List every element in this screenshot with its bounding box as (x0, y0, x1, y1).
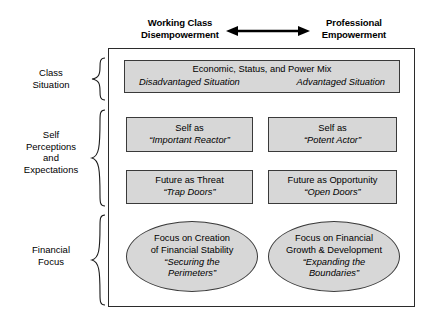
axis-left-line1: Working Class (128, 17, 232, 29)
fin-right-line1: Focus on Financial (295, 233, 373, 245)
future-right-line1: Future as Opportunity (288, 175, 378, 187)
row-label-fin-line2: Focus (14, 256, 88, 268)
axis-right-line2: Empowerment (302, 29, 406, 41)
fin-left-line2: of Financial Stability (151, 245, 234, 257)
self-right-line1: Self as (318, 123, 346, 135)
self-right-line2: “Potent Actor” (304, 135, 361, 147)
ellipse-securing-the-perimeters: Focus on Creation of Financial Stability… (126, 221, 258, 292)
future-right-line2: “Open Doors” (304, 187, 360, 199)
row-label-self-perceptions: Self Perceptions and Expectations (14, 129, 88, 175)
class-situation-right-sub: Advantaged Situation (297, 77, 385, 89)
row-label-self-line3: and (14, 152, 88, 164)
curly-brace-icon-financial-focus (88, 214, 108, 306)
row-label-fin-line1: Financial (14, 244, 88, 256)
box-class-situation: Economic, Status, and Power Mix Disadvan… (124, 60, 400, 93)
axis-label-professional-empowerment: Professional Empowerment (302, 17, 406, 40)
fin-left-line4: Perimeters” (168, 268, 216, 280)
curly-brace-icon-class-situation (88, 57, 108, 101)
ellipse-expanding-the-boundaries: Focus on Financial Growth & Development … (268, 221, 400, 292)
curly-brace-icon-self-perceptions (88, 109, 108, 207)
fin-left-line3: “Securing the (164, 257, 219, 269)
double-headed-horizontal-arrow-icon (226, 22, 310, 40)
fin-right-line2: Growth & Development (286, 245, 382, 257)
row-label-self-line2: Perceptions (14, 141, 88, 153)
box-self-as-potent-actor: Self as “Potent Actor” (268, 117, 397, 152)
row-label-class-situation: Class Situation (14, 67, 88, 90)
self-left-line2: “Important Reactor” (149, 135, 230, 147)
axis-right-line1: Professional (302, 17, 406, 29)
box-future-as-threat: Future as Threat “Trap Doors” (126, 170, 253, 204)
class-situation-subrow: Disadvantaged Situation Advantaged Situa… (125, 77, 399, 89)
fin-left-line1: Focus on Creation (154, 233, 230, 245)
diagram-canvas: Working Class Disempowerment Professiona… (0, 0, 429, 322)
box-self-as-important-reactor: Self as “Important Reactor” (126, 117, 253, 152)
row-label-self-line4: Expectations (14, 164, 88, 176)
class-situation-title: Economic, Status, and Power Mix (193, 64, 332, 76)
fin-right-line4: Boundaries” (309, 268, 359, 280)
row-label-self-line1: Self (14, 129, 88, 141)
future-left-line2: “Trap Doors” (164, 187, 216, 199)
axis-left-line2: Disempowerment (128, 29, 232, 41)
self-left-line1: Self as (175, 123, 203, 135)
class-situation-left-sub: Disadvantaged Situation (139, 77, 240, 89)
row-label-class-line2: Situation (14, 79, 88, 91)
fin-right-line3: “Expanding the (303, 257, 366, 269)
row-label-class-line1: Class (14, 67, 88, 79)
future-left-line1: Future as Threat (155, 175, 224, 187)
axis-label-working-class-disempowerment: Working Class Disempowerment (128, 17, 232, 40)
box-future-as-opportunity: Future as Opportunity “Open Doors” (268, 170, 397, 204)
row-label-financial-focus: Financial Focus (14, 244, 88, 267)
